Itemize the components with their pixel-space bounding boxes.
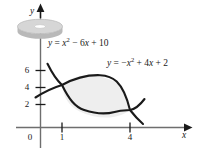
curve-label-downward-mid: + 4 bbox=[134, 58, 149, 68]
x-tick-label-4: 4 bbox=[125, 133, 135, 142]
revolution-disk bbox=[18, 19, 63, 38]
plot-graphics bbox=[0, 0, 198, 154]
x-tick-label-1: 1 bbox=[57, 133, 67, 142]
curve-label-upward-eq: = bbox=[52, 38, 62, 48]
curve-label-downward-tail: + 2 bbox=[153, 58, 168, 68]
curve-label-downward-eq: = − bbox=[111, 58, 126, 68]
y-tick-label-6: 6 bbox=[22, 66, 32, 75]
curve-label-downward-parabola: y = −x2 + 4x + 2 bbox=[107, 59, 168, 69]
y-tick-label-2: 2 bbox=[22, 100, 32, 109]
curve-label-upward-mid: − 6 bbox=[70, 38, 85, 48]
curve-label-upward-tail: + 10 bbox=[89, 38, 109, 48]
y-tick-label-4: 4 bbox=[22, 83, 32, 92]
x-axis-label: x bbox=[182, 131, 186, 141]
y-axis-label: y bbox=[30, 7, 34, 17]
y-axis-arrowhead bbox=[37, 4, 45, 13]
origin-label: 0 bbox=[25, 133, 35, 142]
curve-label-upward-parabola: y = x2 − 6x + 10 bbox=[48, 39, 108, 49]
figure-canvas: y = x2 − 6x + 10 y = −x2 + 4x + 2 6 4 2 … bbox=[0, 0, 198, 154]
